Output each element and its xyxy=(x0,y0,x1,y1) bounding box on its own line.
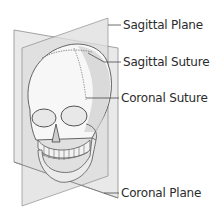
label-coronal-suture: Coronal Suture xyxy=(121,91,208,105)
label-sagittal-plane: Sagittal Plane xyxy=(123,18,203,32)
label-coronal-plane: Coronal Plane xyxy=(121,186,201,200)
left-orbit xyxy=(32,109,56,127)
right-orbit xyxy=(61,106,87,126)
anatomy-diagram: Sagittal Plane Sagittal Suture Coronal S… xyxy=(0,0,218,219)
label-sagittal-suture: Sagittal Suture xyxy=(123,55,209,69)
